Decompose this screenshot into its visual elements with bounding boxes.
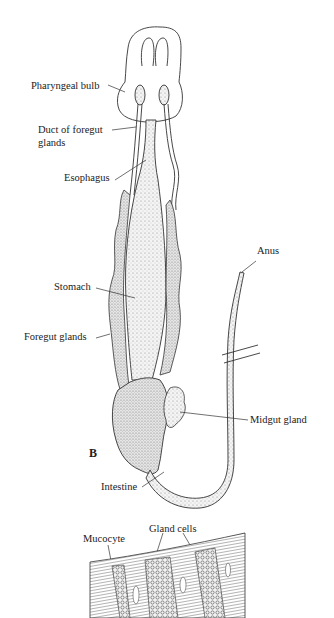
panel-letter: B: [89, 446, 97, 461]
label-foregut-glands: Foregut glands: [24, 331, 87, 343]
label-anus: Anus: [257, 245, 279, 257]
label-intestine: Intestine: [101, 481, 137, 493]
label-mucocyte: Mucocyte: [83, 533, 125, 545]
label-midgut-gland: Midgut gland: [250, 414, 307, 426]
esophagus-stomach-shape: [126, 120, 167, 380]
label-stomach: Stomach: [54, 281, 91, 293]
label-gland-cells: Gland cells: [149, 523, 197, 535]
midgut-gland-shape: [164, 387, 185, 428]
label-duct-of-foregut-glands-line2: glands: [38, 137, 65, 149]
pharyngeal-bulb-shape: [117, 27, 182, 122]
midgut-junction: [112, 378, 168, 474]
histology-section: [90, 533, 245, 618]
label-pharyngeal-bulb: Pharyngeal bulb: [31, 80, 100, 92]
label-duct-of-foregut-glands: Duct of foregut: [38, 124, 103, 136]
label-esophagus: Esophagus: [64, 172, 110, 184]
